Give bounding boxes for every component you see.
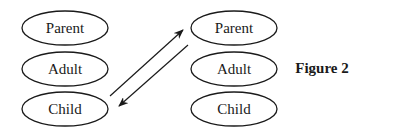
left-adult-label: Adult: [48, 61, 83, 77]
left-parent-node: Parent: [22, 11, 108, 45]
left-parent-label: Parent: [46, 20, 85, 36]
right-child-node: Child: [191, 92, 277, 126]
figure-label: Figure 2: [295, 60, 348, 76]
right-parent-node: Parent: [191, 11, 277, 45]
left-child-node: Child: [22, 92, 108, 126]
right-parent-label: Parent: [215, 20, 254, 36]
transaction-diagram: Parent Adult Child Parent Adult Child Fi…: [0, 0, 398, 140]
left-adult-node: Adult: [22, 52, 108, 86]
arrow-child-to-parent: [110, 30, 183, 96]
arrow-parent-to-child: [119, 45, 188, 106]
right-adult-label: Adult: [217, 61, 252, 77]
right-adult-node: Adult: [191, 52, 277, 86]
right-child-label: Child: [217, 101, 251, 117]
left-child-label: Child: [48, 101, 82, 117]
